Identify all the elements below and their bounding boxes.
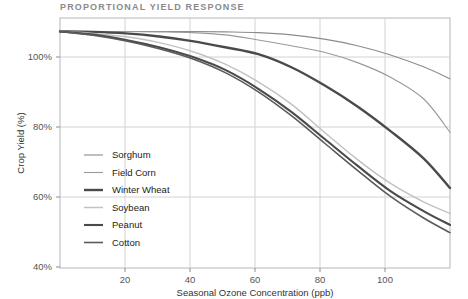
y-tick-label: 80% <box>33 121 53 132</box>
y-axis-title: Crop Yield (%) <box>15 112 26 173</box>
x-tick-label: 60 <box>250 274 261 285</box>
line-chart-plot: 100% 80% 60% 40% 20 40 60 80 100 Seasona… <box>0 0 468 299</box>
x-axis-title: Seasonal Ozone Concentration (ppb) <box>177 287 334 298</box>
legend-item-winter-wheat[interactable]: Winter Wheat <box>112 184 170 195</box>
x-tick-label: 100 <box>377 274 393 285</box>
y-tick-label: 100% <box>28 51 53 62</box>
x-tick-label: 20 <box>120 274 131 285</box>
legend-item-cotton[interactable]: Cotton <box>112 237 140 248</box>
y-tick-label: 60% <box>33 191 53 202</box>
x-axis-tick-labels: 20 40 60 80 100 <box>120 274 393 285</box>
legend-item-soybean[interactable]: Soybean <box>112 202 150 213</box>
y-tick-label: 40% <box>33 261 53 272</box>
y-axis-tick-labels: 100% 80% 60% 40% <box>28 51 53 272</box>
x-tick-label: 80 <box>315 274 326 285</box>
legend-item-field-corn[interactable]: Field Corn <box>112 167 156 178</box>
x-tick-label: 40 <box>185 274 196 285</box>
legend-item-sorghum[interactable]: Sorghum <box>112 149 151 160</box>
legend-item-peanut[interactable]: Peanut <box>112 219 142 230</box>
chart-container: PROPORTIONAL YIELD RESPONSE <box>0 0 468 299</box>
